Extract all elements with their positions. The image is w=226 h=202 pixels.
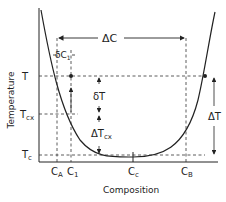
delta-c-label: ΔC (102, 32, 118, 45)
delta-c1-label: δC1 (55, 50, 71, 61)
y-tick-tc: Tc (21, 149, 32, 162)
delta-t-label: ΔT (208, 111, 222, 122)
x-axis-label: Composition (103, 185, 159, 195)
delta-tcx-label: ΔTcx (91, 128, 112, 141)
y-tick-t: T (21, 71, 29, 82)
delta-t-small-label: δT (93, 91, 106, 102)
x-tick-cc: Cc (128, 166, 139, 179)
coexistence-curve (41, 10, 215, 157)
x-tick-cb: CB (181, 166, 193, 179)
y-tick-tcx: Tcx (19, 109, 34, 122)
point-c1-t (69, 74, 73, 78)
axes (39, 8, 218, 162)
phase-diagram: ΔC δC1 δT ΔTcx ΔT T Tcx Tc CA C1 (0, 0, 226, 202)
x-tick-c1: C1 (67, 166, 78, 179)
x-tick-ca: CA (51, 166, 63, 179)
y-axis-label: Temperature (6, 71, 16, 129)
point-cb-t (203, 74, 207, 78)
